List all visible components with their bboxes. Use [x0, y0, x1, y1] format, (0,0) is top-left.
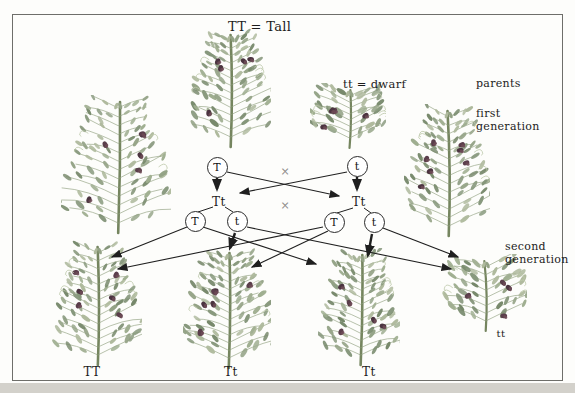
legend-tall-label: TT = Tall	[228, 19, 291, 34]
f2-genotype-TT: TT	[83, 365, 100, 379]
cross-symbol-parents: ×	[280, 165, 289, 178]
second-generation-line1: second	[505, 241, 569, 254]
gamete-letter: T	[191, 216, 198, 227]
first-generation-line2: generation	[476, 121, 540, 134]
plant-parent-dwarf	[310, 83, 386, 151]
gamete-circle-parent-t: t	[347, 156, 368, 177]
second-generation-row-label: second generation	[505, 241, 569, 266]
cross-symbol-f1: ×	[280, 199, 289, 212]
plant-f2-tt	[441, 254, 527, 334]
gamete-circle-f1-T2: T	[324, 212, 345, 233]
gamete-letter: t	[235, 216, 239, 227]
second-generation-line2: generation	[505, 254, 569, 267]
textbook-figure: { "figure": { "legend_tall": "TT = Tall"…	[0, 0, 575, 393]
gamete-circle-parent-T: T	[207, 157, 228, 178]
f2-genotype-Tt-1: Tt	[224, 365, 238, 379]
first-generation-line1: first	[476, 108, 540, 121]
plant-f2-TT	[50, 240, 142, 368]
first-generation-row-label: first generation	[476, 108, 540, 133]
gamete-letter: T	[330, 217, 337, 228]
page-edge-shadow	[0, 383, 575, 393]
f1-genotype-left: Tt	[212, 195, 226, 209]
gamete-circle-f1-T1: T	[185, 211, 206, 232]
legend-dwarf-label: tt = dwarf	[343, 77, 406, 91]
f2-genotype-Tt-2: Tt	[362, 365, 376, 379]
f2-genotype-tt: tt	[496, 328, 505, 339]
figure-canvas: T t T t T t × × TT = Tall tt = dwarf par…	[0, 0, 575, 393]
plant-f1-left	[61, 95, 171, 236]
gamete-letter: t	[355, 161, 359, 172]
parents-row-label: parents	[476, 78, 521, 91]
gamete-letter: t	[372, 217, 376, 228]
gamete-letter: T	[213, 162, 220, 173]
gamete-circle-f1-t2: t	[364, 212, 385, 233]
gamete-circle-f1-t1: t	[227, 211, 248, 232]
f1-genotype-right: Tt	[352, 195, 366, 209]
plant-parent-tall	[187, 28, 271, 150]
plant-f2-Tt-1	[183, 246, 271, 371]
plant-f2-Tt-2	[318, 248, 400, 368]
